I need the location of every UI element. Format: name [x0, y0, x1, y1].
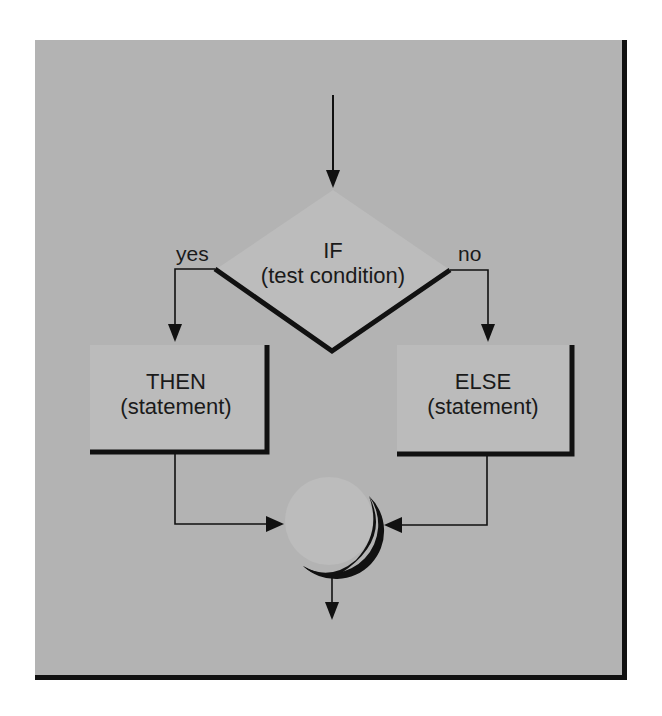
- no-label: no: [458, 242, 481, 266]
- decision-subtitle: (test condition): [233, 263, 433, 288]
- else-subtitle: (statement): [403, 394, 563, 419]
- else-title: ELSE: [403, 369, 563, 394]
- flowchart-figure: yes no IF (test condition) THEN (stateme…: [0, 0, 662, 716]
- then-title: THEN: [96, 369, 256, 394]
- then-text: THEN (statement): [96, 369, 256, 420]
- then-subtitle: (statement): [96, 394, 256, 419]
- decision-text: IF (test condition): [233, 238, 433, 289]
- else-text: ELSE (statement): [403, 369, 563, 420]
- yes-label: yes: [176, 242, 209, 266]
- decision-title: IF: [233, 238, 433, 263]
